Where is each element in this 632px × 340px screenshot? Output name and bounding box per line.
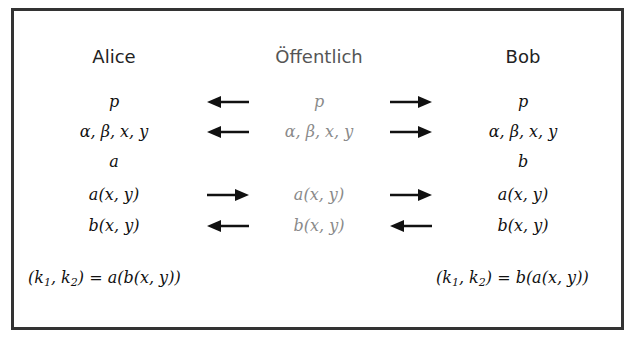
- alice-key-formula: (k1, k2) = a(b(x, y)): [28, 268, 181, 293]
- bob-value-a-xy: a(x, y): [498, 185, 548, 205]
- public-value-a-xy: a(x, y): [294, 185, 344, 205]
- alice-value-p: p: [109, 92, 119, 112]
- alice-value-params: α, β, x, y: [80, 122, 149, 142]
- column-heading-public: Öffentlich: [275, 47, 362, 67]
- arrow-left-icon: [207, 220, 249, 232]
- arrow-left-icon: [207, 126, 249, 138]
- arrow-right-icon: [390, 126, 432, 138]
- column-heading-alice: Alice: [92, 47, 135, 67]
- public-value-p: p: [314, 92, 324, 112]
- arrow-right-icon: [390, 189, 432, 201]
- bob-value-p: p: [518, 92, 528, 112]
- public-value-b-xy: b(x, y): [294, 216, 345, 236]
- bob-secret: b: [518, 152, 528, 172]
- arrow-right-icon: [390, 96, 432, 108]
- alice-value-b-xy: b(x, y): [89, 216, 140, 236]
- alice-secret: a: [109, 152, 119, 172]
- public-value-params: α, β, x, y: [285, 122, 354, 142]
- arrow-right-icon: [207, 189, 249, 201]
- arrow-left-icon: [390, 220, 432, 232]
- arrow-left-icon: [207, 96, 249, 108]
- bob-key-formula: (k1, k2) = b(a(x, y)): [436, 268, 589, 293]
- bob-value-b-xy: b(x, y): [498, 216, 549, 236]
- column-heading-bob: Bob: [506, 47, 541, 67]
- alice-value-a-xy: a(x, y): [89, 185, 139, 205]
- bob-value-params: α, β, x, y: [489, 122, 558, 142]
